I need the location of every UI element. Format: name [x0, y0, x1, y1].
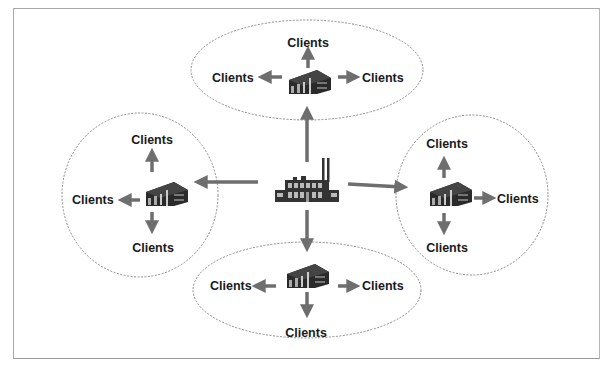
client-label: Clients	[72, 193, 114, 207]
warehouse-icon-top	[289, 70, 331, 94]
warehouse-icon-right	[430, 182, 472, 206]
client-label: Clients	[212, 71, 254, 85]
factory-icon	[275, 158, 339, 202]
client-label: Clients	[287, 36, 329, 50]
client-label: Clients	[426, 137, 468, 151]
warehouse-icon-bottom	[287, 264, 329, 288]
warehouse-icon-left	[146, 182, 188, 206]
cluster-top-boundary	[191, 20, 423, 120]
distribution-diagram: Clients Clients Clients Clients Clients …	[0, 0, 612, 368]
client-label: Clients	[362, 71, 404, 85]
client-label: Clients	[362, 279, 404, 293]
client-label: Clients	[285, 326, 327, 340]
client-label: Clients	[131, 133, 173, 147]
client-label: Clients	[497, 192, 539, 206]
client-label: Clients	[210, 279, 252, 293]
client-label: Clients	[132, 241, 174, 255]
client-label: Clients	[426, 241, 468, 255]
